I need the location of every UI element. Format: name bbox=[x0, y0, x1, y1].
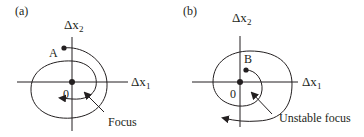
start-point-b-label: B bbox=[244, 52, 252, 66]
origin-label-b: 0 bbox=[230, 87, 236, 101]
start-point-b bbox=[243, 67, 248, 72]
origin-label-a: 0 bbox=[63, 87, 69, 101]
panel-b-label: (b) bbox=[183, 4, 197, 18]
origin-point-a bbox=[69, 79, 75, 85]
unstable-focus-pointer-arrow bbox=[252, 93, 272, 114]
y-axis-label: Δx2 bbox=[64, 17, 83, 34]
panel-a: (a) Δx2 Δx1 A 0 Focus bbox=[15, 4, 150, 131]
trajectory-a bbox=[31, 48, 107, 118]
phase-portrait-figure: (a) Δx2 Δx1 A 0 Focus (b) Δx2 Δx1 B bbox=[0, 0, 364, 137]
panel-a-label: (a) bbox=[15, 4, 28, 18]
focus-pointer-arrow bbox=[85, 93, 104, 112]
focus-annotation: Focus bbox=[108, 115, 137, 129]
panel-b: (b) Δx2 Δx1 B 0 Unstable focus bbox=[183, 4, 351, 127]
start-point-a-label: A bbox=[49, 46, 58, 60]
x-axis-label: Δx1 bbox=[302, 74, 321, 91]
unstable-focus-annotation: Unstable focus bbox=[279, 111, 351, 125]
y-axis-label: Δx2 bbox=[232, 10, 251, 27]
x-axis-label: Δx1 bbox=[131, 74, 150, 91]
origin-point-b bbox=[237, 79, 243, 85]
start-point-a bbox=[61, 45, 66, 50]
